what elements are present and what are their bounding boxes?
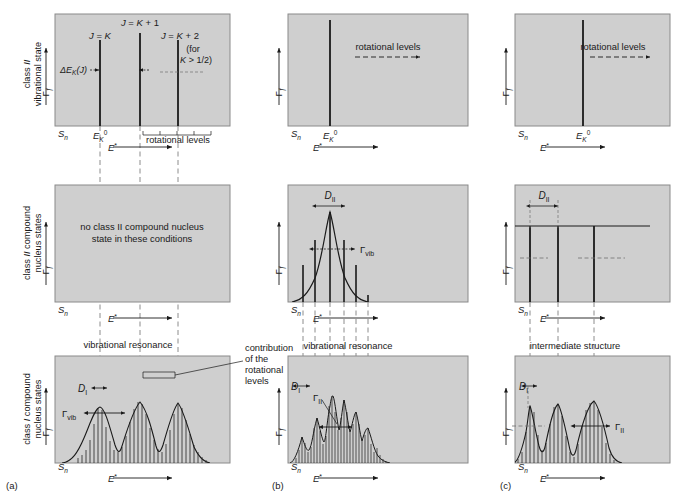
sn-label-b-mid: Sn <box>291 304 301 317</box>
caption-a: (a) <box>6 480 18 491</box>
sn-label-c-mid: Sn <box>518 304 528 317</box>
estar-a-top: E* <box>108 142 117 153</box>
sn-label-a-top: Sn <box>58 128 68 141</box>
yaxis-label-b-bot: Γƒ <box>273 427 286 436</box>
annot-line2: of the <box>245 354 268 364</box>
no-class2-line2: state in these conditions <box>92 233 193 244</box>
rotational-levels-c: rotational levels <box>580 41 645 52</box>
yaxis-label-b-mid: Γƒ <box>273 265 286 274</box>
row-label-class1-cn: class I compound nucleus states <box>22 349 44 469</box>
figure-svg: J = K J = K + 1 J = K + 2 (for K > 1/2) … <box>0 0 680 495</box>
figure-root: J = K J = K + 1 J = K + 2 (for K > 1/2) … <box>0 0 680 495</box>
panel-b-bot <box>288 356 468 463</box>
row-label-line1: class I compound <box>22 349 33 469</box>
annot-line4: levels <box>245 376 269 386</box>
heading-b-bot: vibrational resonance <box>303 340 392 351</box>
row-label-line2: nucleus states <box>33 349 44 469</box>
yaxis-label-c-mid: Γƒ <box>500 265 513 274</box>
estar-c-bot: E* <box>540 473 549 484</box>
no-class2-line1: no class II compound nucleus <box>80 221 204 232</box>
sn-label-b-top: Sn <box>291 128 301 141</box>
ek0-label-b: EK0 <box>323 129 338 143</box>
for-note-line2: K > 1/2) <box>180 55 212 65</box>
estar-a-bot: E* <box>108 473 117 484</box>
estar-c-top: E* <box>540 142 549 153</box>
row-label-line2: nucleus states <box>33 183 44 303</box>
guides-c <box>530 302 594 360</box>
panel-b-top <box>288 14 468 126</box>
estar-a-mid: E* <box>108 313 117 324</box>
heading-c-bot: intermediate structure <box>530 340 621 351</box>
row-label-line2: vibrational state <box>33 19 44 129</box>
ek0-label-a: EK0 <box>93 129 108 143</box>
rotational-levels-a: rotational levels <box>146 135 210 145</box>
estar-b-mid: E* <box>313 313 322 324</box>
caption-b: (b) <box>272 480 284 491</box>
yaxis-label-b-top: Γƒ <box>273 87 286 96</box>
row-label-line1: class II compound <box>22 183 33 303</box>
row-label-class2-cn: class II compound nucleus states <box>22 183 44 303</box>
sn-label-c-top: Sn <box>518 128 528 141</box>
row-label-line1: class II <box>22 19 33 129</box>
annot-line3: rotational <box>245 365 283 375</box>
estar-c-mid: E* <box>540 313 549 324</box>
caption-c: (c) <box>500 480 511 491</box>
heading-a-bot: vibrational resonance <box>83 339 172 350</box>
label-jk1: J = K + 1 <box>120 17 159 28</box>
panel-c-top <box>515 14 670 126</box>
estar-b-bot: E* <box>313 473 322 484</box>
estar-b-top: E* <box>313 142 322 153</box>
ek0-label-c: EK0 <box>576 129 591 143</box>
for-note-line1: (for <box>186 44 200 54</box>
panel-a-bot <box>55 356 230 463</box>
row-label-class2-vib: class II vibrational state <box>22 19 44 129</box>
yaxis-label-c-top: Γƒ <box>500 87 513 96</box>
annot-line1: contribution <box>245 343 293 353</box>
guides-b <box>303 302 368 360</box>
yaxis-label-c-bot: Γƒ <box>500 427 513 436</box>
sn-label-a-mid: Sn <box>58 304 68 317</box>
label-jk2: J = K + 2 <box>160 30 199 41</box>
panel-c-mid <box>515 185 670 302</box>
label-jk: J = K <box>88 30 112 41</box>
rotational-levels-b: rotational levels <box>355 41 420 52</box>
